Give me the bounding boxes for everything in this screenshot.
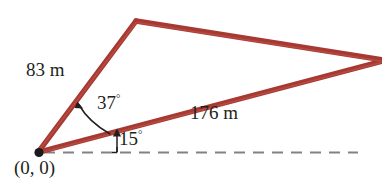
vector-diagram-figure: 83 m 176 m 37° 15° (0, 0) <box>0 0 382 186</box>
angle-label-15: 15° <box>119 129 142 148</box>
angle-label-37: 37° <box>97 93 120 112</box>
vector-path-group <box>39 21 382 153</box>
segment-top-edge-highlight <box>137 23 381 62</box>
diagram-canvas <box>0 0 382 186</box>
segment-top-edge <box>136 21 382 60</box>
degree-symbol-icon: ° <box>116 92 120 104</box>
length-label-176m: 176 m <box>190 103 238 122</box>
length-label-83m: 83 m <box>26 60 65 79</box>
origin-coordinate-label: (0, 0) <box>14 158 55 177</box>
angle-15-value: 15 <box>119 128 138 149</box>
degree-symbol-icon: ° <box>138 128 142 140</box>
angle-37-value: 37 <box>97 92 116 113</box>
origin-dot <box>34 148 43 157</box>
